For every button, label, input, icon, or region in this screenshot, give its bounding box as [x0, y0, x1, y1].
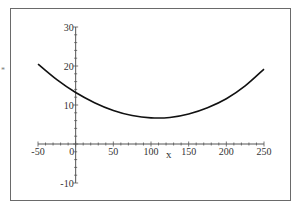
y-tick-label: 10: [64, 100, 74, 111]
x-tick-label: 100: [144, 146, 159, 157]
y-tick-label: -10: [60, 178, 73, 189]
x-tick-label: 150: [181, 146, 196, 157]
x-tick-label: -50: [31, 146, 44, 157]
tick-labels: -50050100150200250-10102030: [31, 22, 271, 189]
x-tick-label: 200: [219, 146, 234, 157]
line-chart: -50050100150200250-10102030 x: [0, 0, 297, 207]
x-tick-label: 0: [69, 146, 74, 157]
y-tick-label: 30: [64, 22, 74, 33]
x-tick-label: 250: [257, 146, 272, 157]
y-tick-label: 20: [64, 61, 74, 72]
x-tick-label: 50: [108, 146, 118, 157]
x-axis-label: x: [166, 148, 172, 160]
